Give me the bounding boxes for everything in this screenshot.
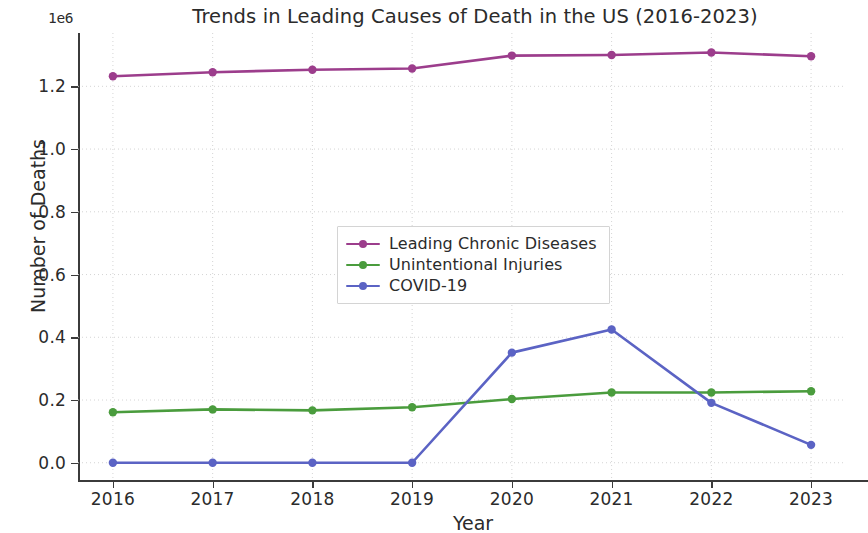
data-point <box>208 405 216 413</box>
x-tick-mark <box>811 481 812 488</box>
series-line <box>113 52 811 76</box>
legend-label: Leading Chronic Diseases <box>389 234 597 253</box>
data-point <box>508 51 516 59</box>
x-tick-mark <box>312 481 313 488</box>
data-point <box>308 459 316 467</box>
data-point <box>408 403 416 411</box>
y-axis-offset-text: 1e6 <box>48 10 73 26</box>
x-axis-label: Year <box>78 512 868 533</box>
data-point <box>109 459 117 467</box>
y-tick-mark <box>71 337 78 338</box>
y-tick-mark <box>71 463 78 464</box>
y-tick-mark <box>71 212 78 213</box>
data-point <box>807 441 815 449</box>
data-point <box>408 459 416 467</box>
legend-line-marker-icon <box>346 279 380 293</box>
legend-item[interactable]: COVID-19 <box>346 275 597 296</box>
data-point <box>208 459 216 467</box>
data-point <box>707 388 715 396</box>
y-tick-label-0.0: 0.0 <box>6 453 66 473</box>
data-point <box>208 68 216 76</box>
legend-item[interactable]: Unintentional Injuries <box>346 254 597 275</box>
data-point <box>807 52 815 60</box>
data-point <box>807 387 815 395</box>
chart-title: Trends in Leading Causes of Death in the… <box>0 5 868 28</box>
data-point <box>707 399 715 407</box>
x-axis-spine <box>78 480 868 482</box>
x-tick-mark <box>113 481 114 488</box>
x-tick-label-2022: 2022 <box>666 489 756 509</box>
data-point <box>308 406 316 414</box>
y-axis-label: Number of Deaths <box>27 26 49 426</box>
legend-line-marker-icon <box>346 237 380 251</box>
y-tick-mark <box>71 86 78 87</box>
chart-figure: Trends in Leading Causes of Death in the… <box>0 0 868 533</box>
legend-label: Unintentional Injuries <box>389 255 563 274</box>
x-tick-label-2017: 2017 <box>168 489 258 509</box>
x-tick-label-2020: 2020 <box>467 489 557 509</box>
x-tick-label-2018: 2018 <box>267 489 357 509</box>
x-tick-label-2021: 2021 <box>567 489 657 509</box>
data-point <box>508 348 516 356</box>
legend-line-marker-icon <box>346 258 380 272</box>
x-tick-label-2023: 2023 <box>766 489 856 509</box>
x-tick-label-2019: 2019 <box>367 489 457 509</box>
y-tick-mark <box>71 149 78 150</box>
x-tick-mark <box>213 481 214 488</box>
data-point <box>607 51 615 59</box>
data-point <box>109 408 117 416</box>
y-tick-mark <box>71 275 78 276</box>
data-point <box>607 325 615 333</box>
legend-item[interactable]: Leading Chronic Diseases <box>346 233 597 254</box>
data-point <box>607 388 615 396</box>
series-0 <box>109 48 816 80</box>
series-line <box>113 329 811 462</box>
data-point <box>308 66 316 74</box>
x-tick-mark <box>512 481 513 488</box>
x-tick-mark <box>412 481 413 488</box>
data-point <box>408 64 416 72</box>
x-tick-mark <box>612 481 613 488</box>
data-point <box>707 48 715 56</box>
legend-label: COVID-19 <box>389 276 467 295</box>
x-tick-label-2016: 2016 <box>68 489 158 509</box>
data-point <box>508 395 516 403</box>
x-tick-mark <box>711 481 712 488</box>
chart-legend: Leading Chronic DiseasesUnintentional In… <box>337 226 610 304</box>
y-tick-mark <box>71 400 78 401</box>
data-point <box>109 72 117 80</box>
